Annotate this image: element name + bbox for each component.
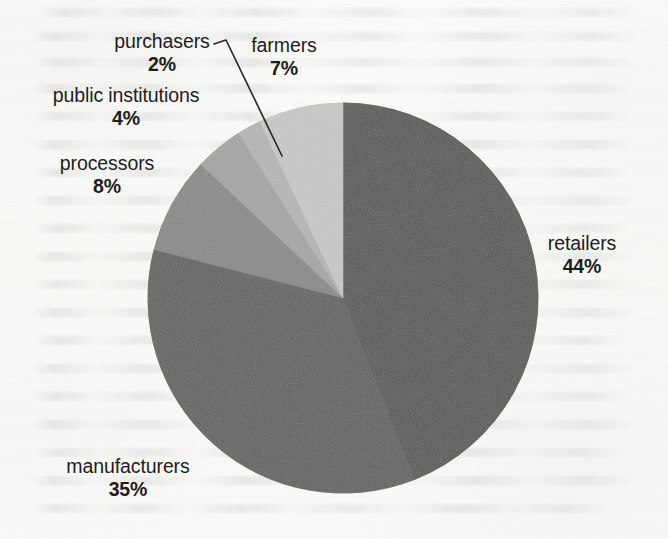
slice-label-public-institutions-value: 4% bbox=[22, 107, 230, 130]
slice-label-purchasers-name: purchasers bbox=[94, 30, 230, 53]
slice-label-processors: processors 8% bbox=[34, 152, 180, 197]
slice-label-retailers-name: retailers bbox=[522, 232, 642, 255]
slice-label-manufacturers-value: 35% bbox=[22, 478, 234, 501]
slice-label-manufacturers: manufacturers 35% bbox=[22, 455, 234, 500]
slice-label-farmers-value: 7% bbox=[228, 57, 340, 80]
slice-label-purchasers-value: 2% bbox=[94, 53, 230, 76]
slice-label-retailers: retailers 44% bbox=[522, 232, 642, 277]
slice-label-retailers-value: 44% bbox=[522, 255, 642, 278]
slice-label-manufacturers-name: manufacturers bbox=[22, 455, 234, 478]
slice-label-processors-name: processors bbox=[34, 152, 180, 175]
slice-label-processors-value: 8% bbox=[34, 175, 180, 198]
slice-label-farmers: farmers 7% bbox=[228, 34, 340, 79]
pie-chart: retailers 44%manufacturers 35%processors… bbox=[0, 0, 668, 539]
slice-label-farmers-name: farmers bbox=[228, 34, 340, 57]
slice-label-public-institutions: public institutions 4% bbox=[22, 84, 230, 129]
slice-label-purchasers: purchasers 2% bbox=[94, 30, 230, 75]
slice-label-public-institutions-name: public institutions bbox=[22, 84, 230, 107]
